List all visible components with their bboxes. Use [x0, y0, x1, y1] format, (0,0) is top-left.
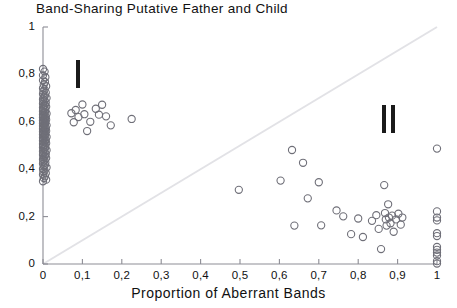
data-points-group [39, 65, 440, 267]
scatter-plot-figure: Band-Sharing Putative Father and Child P… [0, 0, 457, 308]
data-point [128, 115, 135, 122]
data-point [381, 181, 388, 188]
data-point [95, 111, 102, 118]
data-point [359, 233, 366, 240]
data-point [333, 207, 340, 214]
data-point [99, 101, 106, 108]
data-point [304, 195, 311, 202]
data-point [373, 212, 380, 219]
y-axis-tick-label: 1 [0, 20, 35, 32]
data-point [291, 222, 298, 229]
y-axis-tick-label: 0 [0, 257, 35, 269]
x-axis-tick-label: 0,8 [338, 269, 378, 281]
axis-and-data-layer [0, 0, 457, 308]
data-point [299, 159, 306, 166]
x-axis-tick-label: 0,4 [181, 269, 221, 281]
data-point [397, 221, 404, 228]
data-point [87, 118, 94, 125]
x-axis-tick-label: 0 [23, 269, 63, 281]
data-point [385, 201, 392, 208]
cluster-label-bar [76, 60, 80, 88]
cluster-label-i: I [76, 60, 80, 88]
cluster-label-ii: II [382, 105, 395, 133]
x-axis-tick-label: 0,9 [378, 269, 418, 281]
data-point [277, 177, 284, 184]
data-point [377, 245, 384, 252]
data-point [340, 213, 347, 220]
diagonal-reference-line [43, 27, 437, 264]
x-axis-title: Proportion of Aberrant Bands [0, 285, 457, 301]
x-axis-tick-label: 1 [417, 269, 457, 281]
data-point [107, 122, 114, 129]
x-axis-tick-label: 0,5 [220, 269, 260, 281]
data-point [81, 111, 88, 118]
data-point [288, 146, 295, 153]
data-point [102, 113, 109, 120]
x-axis-tick-label: 0,6 [259, 269, 299, 281]
data-point [235, 186, 242, 193]
x-axis-tick-label: 0,1 [62, 269, 102, 281]
x-axis-tick-label: 0,2 [102, 269, 142, 281]
x-axis-tick-label: 0,7 [299, 269, 339, 281]
data-point [315, 179, 322, 186]
data-point [390, 228, 397, 235]
cluster-label-bar [391, 105, 395, 133]
y-axis-tick-label: 0,8 [0, 67, 35, 79]
x-axis-tick-label: 0,3 [141, 269, 181, 281]
data-point [84, 127, 91, 134]
data-point [375, 225, 382, 232]
y-axis-tick-label: 0,2 [0, 210, 35, 222]
data-point [348, 231, 355, 238]
cluster-label-bar [382, 105, 386, 133]
data-point [79, 101, 86, 108]
data-point [433, 145, 440, 152]
data-point [318, 222, 325, 229]
y-axis-tick-label: 0,4 [0, 162, 35, 174]
data-point [355, 215, 362, 222]
y-axis-tick-label: 0,6 [0, 115, 35, 127]
